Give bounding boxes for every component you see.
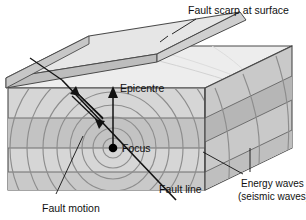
label-focus: Focus: [122, 142, 151, 154]
label-energy-waves-line2: (seismic waves): [238, 191, 306, 202]
label-epicentre: Epicentre: [120, 82, 165, 94]
strata-band-front: [8, 118, 205, 148]
label-fault-line: Fault line: [159, 183, 202, 195]
label-fault-motion: Fault motion: [42, 202, 100, 214]
focus-point-dot: [109, 144, 118, 153]
label-fault-scarp: Fault scarp at surface: [188, 4, 289, 16]
earthquake-block-diagram: Fault scarp at surface Epicentre Focus F…: [0, 0, 306, 220]
label-energy-waves-line1: Energy waves: [241, 178, 304, 189]
diagram-canvas: Fault scarp at surface Epicentre Focus F…: [0, 0, 306, 220]
